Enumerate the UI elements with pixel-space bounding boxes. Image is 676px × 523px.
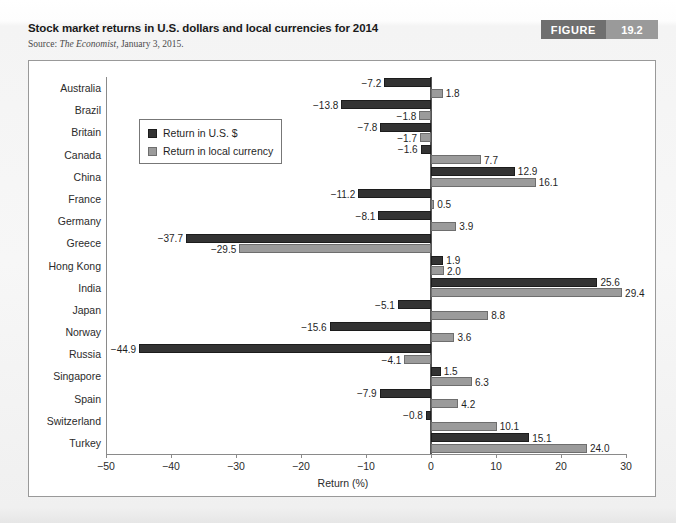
bar-value-japan-usd: −5.1 — [375, 299, 395, 310]
bar-china-local — [431, 178, 536, 187]
x-tick-mark--50 — [106, 454, 107, 458]
bar-value-hong-kong-usd: 1.9 — [446, 255, 460, 266]
legend-swatch-local-icon — [148, 147, 157, 156]
y-axis-label-germany: Germany — [58, 215, 101, 227]
x-tick-label--10: −10 — [357, 460, 375, 472]
bar-value-spain-local: 4.2 — [461, 398, 475, 409]
y-axis-label-china: China — [74, 171, 101, 183]
legend-item-usd: Return in U.S. $ — [148, 127, 238, 139]
x-tick-label--40: −40 — [162, 460, 180, 472]
bar-britain-local — [420, 133, 431, 142]
y-axis-tick-labels: AustraliaBrazilBritainCanadaChinaFranceG… — [29, 61, 101, 498]
bar-value-turkey-local: 24.0 — [590, 443, 609, 454]
bar-india-local — [431, 288, 622, 297]
bar-value-canada-usd: −1.6 — [398, 144, 418, 155]
bar-value-singapore-usd: 1.5 — [444, 366, 458, 377]
bar-singapore-local — [431, 377, 472, 386]
x-tick-mark-10 — [496, 454, 497, 458]
figure-badge: FIGURE 19.2 — [541, 20, 658, 39]
bar-france-local — [431, 200, 434, 209]
x-tick-mark-20 — [561, 454, 562, 458]
figure-source: Source: The Economist, January 3, 2015. — [28, 39, 184, 49]
legend-label-local: Return in local currency — [163, 145, 273, 157]
chart-plot-area: AustraliaBrazilBritainCanadaChinaFranceG… — [29, 61, 657, 498]
figure-page: Stock market returns in U.S. dollars and… — [0, 0, 676, 523]
bar-value-russia-local: −4.1 — [382, 354, 402, 365]
chart-frame: AustraliaBrazilBritainCanadaChinaFranceG… — [28, 60, 656, 497]
x-tick-label--30: −30 — [227, 460, 245, 472]
bar-switzerland-usd — [426, 411, 431, 420]
y-axis-label-norway: Norway — [65, 326, 101, 338]
legend-item-local: Return in local currency — [148, 145, 273, 157]
legend-swatch-usd-icon — [148, 129, 157, 138]
bar-value-australia-usd: −7.2 — [361, 77, 381, 88]
y-axis-label-britain: Britain — [71, 126, 101, 138]
bar-brazil-usd — [341, 100, 431, 109]
x-tick-label--20: −20 — [292, 460, 310, 472]
bar-britain-usd — [380, 123, 431, 132]
bar-australia-local — [431, 89, 443, 98]
bar-value-greece-usd: −37.7 — [158, 233, 183, 244]
bar-value-brazil-local: −1.8 — [397, 110, 417, 121]
y-axis-label-hong-kong: Hong Kong — [48, 260, 101, 272]
x-tick-label-0: 0 — [428, 460, 434, 472]
bar-germany-local — [431, 222, 456, 231]
bar-hong-kong-usd — [431, 256, 443, 265]
bar-india-usd — [431, 278, 597, 287]
bar-norway-usd — [330, 322, 431, 331]
bar-value-britain-usd: −7.8 — [358, 122, 378, 133]
x-tick-mark--30 — [236, 454, 237, 458]
bar-greece-local — [239, 244, 431, 253]
bar-russia-local — [404, 355, 431, 364]
chart-legend: Return in U.S. $ Return in local currenc… — [139, 119, 282, 164]
x-tick-mark--20 — [301, 454, 302, 458]
x-tick-label-20: 20 — [555, 460, 567, 472]
x-tick-mark-0 — [431, 454, 432, 458]
bar-japan-usd — [398, 300, 431, 309]
bar-value-norway-usd: −15.6 — [301, 321, 326, 332]
bar-value-brazil-usd: −13.8 — [313, 99, 338, 110]
x-tick-mark-30 — [626, 454, 627, 458]
bar-value-spain-usd: −7.9 — [357, 388, 377, 399]
bar-value-japan-local: 8.8 — [491, 310, 505, 321]
bar-spain-usd — [380, 389, 431, 398]
y-axis-label-france: France — [68, 193, 101, 205]
bar-spain-local — [431, 399, 458, 408]
y-axis-label-brazil: Brazil — [75, 104, 101, 116]
legend-label-usd: Return in U.S. $ — [163, 127, 238, 139]
figure-badge-word: FIGURE — [541, 20, 606, 39]
bar-value-china-usd: 12.9 — [518, 166, 537, 177]
bar-value-switzerland-local: 10.1 — [500, 421, 519, 432]
figure-badge-number: 19.2 — [606, 20, 658, 39]
bar-value-turkey-usd: 15.1 — [532, 432, 551, 443]
y-axis-label-spain: Spain — [74, 393, 101, 405]
bar-turkey-usd — [431, 433, 529, 442]
bar-value-canada-local: 7.7 — [484, 154, 498, 165]
x-tick-mark--40 — [171, 454, 172, 458]
bar-value-norway-local: 3.6 — [457, 332, 471, 343]
x-tick-label-10: 10 — [490, 460, 502, 472]
bar-value-britain-local: −1.7 — [397, 132, 417, 143]
bar-value-india-usd: 25.6 — [600, 277, 619, 288]
bar-greece-usd — [186, 234, 431, 243]
y-axis-label-turkey: Turkey — [69, 437, 101, 449]
bar-china-usd — [431, 167, 515, 176]
bar-canada-local — [431, 155, 481, 164]
y-axis-label-australia: Australia — [60, 82, 101, 94]
bar-russia-usd — [139, 344, 431, 353]
bar-france-usd — [358, 189, 431, 198]
source-publication: The Economist — [59, 39, 116, 49]
bar-brazil-local — [419, 111, 431, 120]
bar-value-germany-usd: −8.1 — [356, 210, 376, 221]
bar-norway-local — [431, 333, 454, 342]
bar-value-france-local: 0.5 — [437, 199, 451, 210]
bar-germany-usd — [378, 211, 431, 220]
x-tick-label-30: 30 — [620, 460, 632, 472]
bar-turkey-local — [431, 444, 587, 453]
source-label: Source: — [28, 39, 59, 49]
bar-value-singapore-local: 6.3 — [475, 376, 489, 387]
bar-canada-usd — [421, 145, 431, 154]
y-axis-label-switzerland: Switzerland — [47, 415, 101, 427]
bar-hong-kong-local — [431, 266, 444, 275]
bar-value-hong-kong-local: 2.0 — [447, 265, 461, 276]
